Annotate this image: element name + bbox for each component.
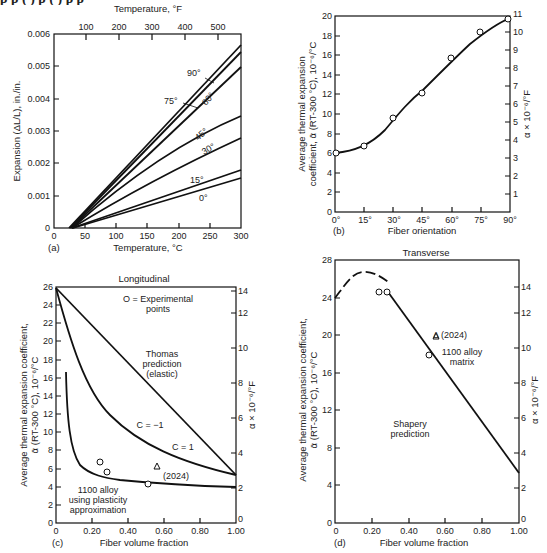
svg-text:4: 4 [327, 168, 332, 178]
svg-text:0.006: 0.006 [27, 29, 50, 39]
svg-text:(elastic): (elastic) [146, 369, 178, 379]
svg-text:6: 6 [327, 148, 332, 158]
svg-text:0.60: 0.60 [436, 526, 454, 536]
svg-text:150: 150 [139, 231, 154, 241]
panel-a: Temperature, °F 100 200 300 400 500 0 0.… [11, 3, 249, 253]
panel-a-curve-labels: 90° 75° 60° 45° 30° 15° 0° [164, 68, 217, 203]
panel-b-tag: (b) [333, 225, 345, 236]
svg-text:2: 2 [48, 500, 53, 510]
svg-text:200: 200 [111, 22, 126, 32]
panel-c: Longitudinal 0 2 4 6 8 10 12 14 16 18 20… [18, 273, 257, 548]
svg-text:500: 500 [210, 22, 225, 32]
panel-b-fit-curve [335, 18, 510, 153]
svg-text:0.005: 0.005 [27, 61, 50, 71]
svg-text:8: 8 [521, 378, 526, 388]
svg-text:6: 6 [521, 413, 526, 423]
svg-text:approximation: approximation [70, 505, 127, 515]
svg-text:0: 0 [48, 518, 53, 528]
svg-text:2: 2 [513, 171, 518, 181]
thomas-label: Thomas [146, 349, 179, 359]
panel-d-plot-frame [335, 260, 519, 523]
panel-c-xticks: 0 0.20 0.40 0.60 0.80 1.00 [53, 526, 244, 536]
svg-text:6: 6 [48, 464, 53, 474]
label-2024: (2024) [163, 471, 189, 481]
svg-text:12: 12 [521, 308, 531, 318]
svg-text:11: 11 [513, 9, 522, 19]
panel-c-tag: (c) [52, 537, 63, 548]
svg-text:4: 4 [513, 135, 518, 145]
panel-d-ylabel-1: Average thermal expansion coefficient, [297, 318, 308, 481]
svg-text:10: 10 [513, 27, 523, 37]
panel-b-plot-frame [335, 16, 510, 212]
svg-text:0.002: 0.002 [27, 158, 50, 168]
svg-text:0: 0 [521, 514, 526, 524]
panel-c-ylabel-right: α × 10⁻⁶/°F [246, 381, 257, 429]
shapery-label: Shapery [393, 419, 427, 429]
panel-b-experimental-points [333, 16, 511, 156]
svg-text:10: 10 [521, 343, 531, 353]
svg-text:30°: 30° [200, 141, 217, 157]
svg-text:90°: 90° [503, 215, 517, 225]
panel-c-title: Longitudinal [118, 273, 169, 284]
svg-text:0: 0 [53, 526, 58, 536]
svg-text:400: 400 [177, 22, 192, 32]
svg-text:250: 250 [202, 231, 217, 241]
panel-b-ylabel-2: coefficient, ᾱ (RT-300 °C), 10⁻⁶/°C [307, 42, 318, 187]
c-plus-label: C = 1 [172, 442, 194, 452]
curve-c-minus-1 [56, 288, 236, 475]
svg-text:28: 28 [322, 255, 332, 265]
svg-text:8: 8 [327, 129, 332, 139]
label-1100: 1100 alloy [78, 485, 119, 495]
curve-75deg [70, 52, 241, 228]
svg-text:10: 10 [322, 109, 332, 119]
svg-text:7: 7 [513, 81, 518, 91]
svg-text:0.001: 0.001 [27, 191, 50, 201]
curve-90deg [69, 45, 241, 228]
panel-a-curves [69, 45, 241, 228]
label-1100: 1100 alloy [442, 347, 483, 357]
svg-text:8: 8 [513, 63, 518, 73]
svg-text:0: 0 [327, 518, 332, 528]
panel-d-xticks: 0 0.20 0.40 0.60 0.80 1.00 [333, 526, 527, 536]
svg-text:14: 14 [322, 70, 332, 80]
curve-45deg [72, 116, 241, 228]
panel-a-top-xlabel: Temperature, °F [114, 3, 182, 14]
svg-text:16: 16 [43, 373, 53, 383]
svg-text:0.20: 0.20 [83, 526, 101, 536]
c-minus-label: C = −1 [136, 420, 163, 430]
panel-d-annotations: Δ (2024) 1100 alloy matrix Shapery predi… [390, 330, 482, 439]
panel-b-yticks: 0 2 4 6 8 10 12 14 16 18 20 [322, 11, 332, 217]
panel-a-xlabel: Temperature, °C [113, 242, 182, 253]
svg-text:6: 6 [238, 413, 243, 423]
panel-d-experimental-points [376, 289, 439, 358]
legend-experimental: O = Experimental [123, 294, 193, 304]
svg-text:20: 20 [322, 330, 332, 340]
svg-text:60°: 60° [445, 215, 459, 225]
svg-text:0°: 0° [332, 215, 341, 225]
svg-text:15°: 15° [190, 175, 204, 185]
panel-c-curves [56, 288, 236, 487]
svg-text:300: 300 [233, 231, 248, 241]
panel-a-xticks: 0 50 100 150 200 250 300 [51, 231, 248, 241]
svg-text:90°: 90° [187, 68, 201, 78]
curve-shapery-solid [388, 292, 519, 473]
svg-text:0.80: 0.80 [191, 526, 209, 536]
curve-30deg [72, 138, 241, 228]
panel-d-xlabel: Fiber volume fraction [380, 537, 469, 548]
panel-d-ylabel-right: α × 10⁻⁶/°F [529, 376, 540, 424]
svg-text:14: 14 [43, 391, 53, 401]
svg-text:4: 4 [238, 448, 243, 458]
svg-text:10: 10 [238, 343, 248, 353]
svg-text:75°: 75° [474, 215, 488, 225]
svg-text:15°: 15° [358, 215, 372, 225]
svg-text:8: 8 [327, 443, 332, 453]
svg-text:100: 100 [108, 231, 123, 241]
panel-a-plot-frame [54, 34, 241, 228]
svg-text:0: 0 [333, 526, 338, 536]
panel-b-ylabel-right: α × 10⁻⁶/°F [521, 90, 532, 138]
panel-a-tag: (a) [48, 242, 60, 253]
panel-a-top-xticks: 100 200 300 400 500 [78, 22, 225, 32]
svg-text:1.00: 1.00 [227, 526, 245, 536]
triangle-2024-marker [154, 463, 160, 469]
svg-text:24: 24 [43, 300, 53, 310]
